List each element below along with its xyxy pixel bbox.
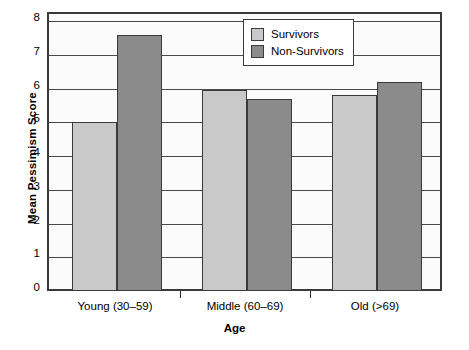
y-tick-label-8: 8 — [10, 11, 40, 23]
bar-survivors-group-2 — [202, 90, 247, 291]
pessimism-bar-chart: Mean Pessimism Score 012345678 Young (30… — [0, 0, 469, 350]
bar-non-survivors-group-2 — [247, 99, 292, 291]
y-tick-label-6: 6 — [10, 79, 40, 91]
y-tick-label-3: 3 — [10, 180, 40, 192]
bar-non-survivors-group-1 — [117, 35, 162, 292]
legend-swatch-non-survivors — [251, 45, 264, 58]
y-tick-label-1: 1 — [10, 247, 40, 259]
x-tick-mark-1 — [180, 291, 181, 298]
y-tick-label-4: 4 — [10, 146, 40, 158]
y-axis-title: Mean Pessimism Score — [26, 43, 38, 273]
legend-label-non-survivors: Non-Survivors — [271, 45, 344, 57]
y-tick-label-5: 5 — [10, 112, 40, 124]
legend-swatch-survivors — [251, 28, 264, 41]
bar-non-survivors-group-3 — [377, 82, 422, 291]
chart-legend: Survivors Non-Survivors — [243, 19, 354, 66]
y-tick-label-2: 2 — [10, 214, 40, 226]
x-tick-label-1: Young (30–59) — [40, 300, 190, 312]
x-axis-title: Age — [0, 322, 469, 334]
bar-survivors-group-1 — [72, 122, 117, 291]
legend-item-non-survivors: Non-Survivors — [251, 43, 344, 59]
bar-survivors-group-3 — [332, 95, 377, 291]
x-tick-label-2: Middle (60–69) — [170, 300, 320, 312]
y-tick-label-7: 7 — [10, 45, 40, 57]
x-tick-mark-2 — [310, 291, 311, 298]
y-tick-label-0: 0 — [10, 281, 40, 293]
legend-item-survivors: Survivors — [251, 26, 344, 42]
legend-label-survivors: Survivors — [271, 28, 319, 40]
x-tick-label-3: Old (>69) — [300, 300, 450, 312]
